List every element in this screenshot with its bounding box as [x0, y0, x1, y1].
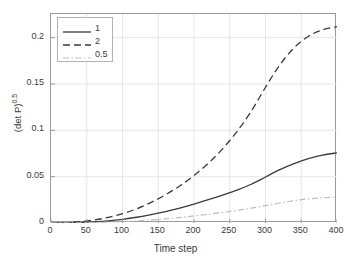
x-tick-label: 400 [316, 225, 351, 236]
legend-item-0.5[interactable]: 0.5 [58, 47, 112, 60]
legend-line-sample [62, 49, 92, 59]
x-tick-label: 50 [66, 225, 106, 236]
x-tick-label: 250 [209, 225, 249, 236]
legend-item-label: 0.5 [95, 49, 108, 59]
legend-item-label: 1 [95, 23, 100, 33]
y-axis-label-exponent: 0.5 [11, 94, 18, 104]
x-tick-label: 200 [173, 225, 213, 236]
legend-line-sample [62, 36, 92, 46]
x-tick-label: 350 [280, 225, 320, 236]
legend-item-1[interactable]: 1 [58, 21, 112, 34]
y-tick-label: 0 [4, 216, 44, 227]
x-tick-label: 150 [137, 225, 177, 236]
legend-line-sample [62, 23, 92, 33]
x-axis-label: Time step [0, 243, 351, 254]
legend-item-2[interactable]: 2 [58, 34, 112, 47]
x-tick-label: 100 [102, 225, 142, 236]
x-axis-label-text: Time step [154, 243, 198, 254]
y-tick-label: 0.2 [4, 31, 44, 42]
figure: 050100150200250300350400 00.050.10.150.2… [0, 0, 351, 266]
y-axis-label: (det P)0.5 [11, 53, 25, 173]
legend-item-label: 2 [95, 36, 100, 46]
y-axis-label-base: (det P) [12, 104, 23, 133]
y-axis-label-text: (det P)0.5 [11, 53, 23, 173]
x-tick-label: 300 [245, 225, 285, 236]
legend[interactable]: 120.5 [57, 17, 113, 62]
